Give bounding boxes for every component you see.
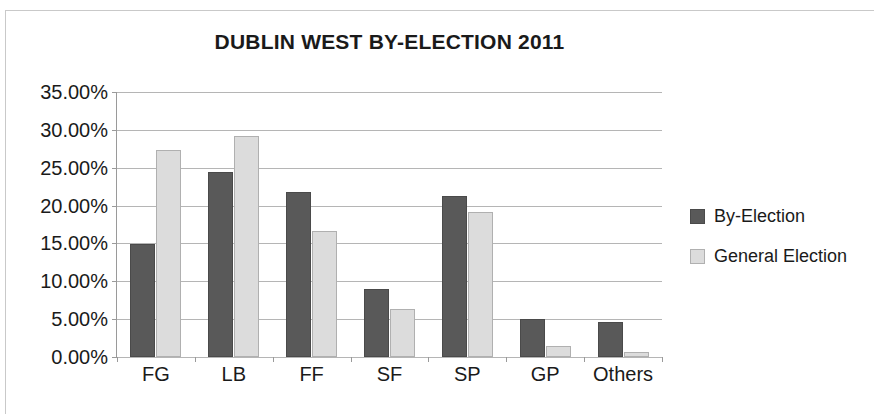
x-axis-category-label: LB (195, 363, 273, 386)
bar (624, 352, 649, 357)
legend-swatch-icon (690, 209, 705, 224)
bar (390, 309, 415, 357)
y-axis-tick-label: 20.00% (40, 194, 108, 217)
y-axis-tick-label: 0.00% (51, 346, 108, 369)
legend-item[interactable]: General Election (690, 236, 847, 276)
gridline (117, 357, 662, 358)
bar (130, 244, 155, 357)
x-axis-category-label: FG (117, 363, 195, 386)
x-axis-tick (584, 357, 585, 362)
y-axis-labels: 0.00%5.00%10.00%15.00%20.00%25.00%30.00%… (10, 92, 108, 357)
x-axis-tick (273, 357, 274, 362)
bar (364, 289, 389, 357)
x-axis-category-label: SP (428, 363, 506, 386)
bar (546, 346, 571, 357)
chart-title: DUBLIN WEST BY-ELECTION 2011 (117, 30, 662, 54)
plot-area (117, 92, 662, 357)
x-axis-tick (351, 357, 352, 362)
x-axis-category-label: GP (506, 363, 584, 386)
bar-group (117, 92, 195, 357)
bar-group (506, 92, 584, 357)
bar-group (584, 92, 662, 357)
bar-group (428, 92, 506, 357)
bar (156, 150, 181, 357)
x-axis-tick (506, 357, 507, 362)
bar (312, 231, 337, 357)
legend-swatch-icon (690, 249, 705, 264)
y-axis-tick-label: 10.00% (40, 270, 108, 293)
bar (234, 136, 259, 357)
x-axis-category-label: SF (351, 363, 429, 386)
x-axis-tick (662, 357, 663, 362)
x-axis-category-label: FF (273, 363, 351, 386)
bar (286, 192, 311, 357)
legend-label: By-Election (714, 206, 805, 227)
x-axis-tick (117, 357, 118, 362)
bar (442, 196, 467, 357)
bar (520, 319, 545, 357)
chart-screenshot: DUBLIN WEST BY-ELECTION 2011 0.00%5.00%1… (0, 0, 876, 414)
bar (598, 322, 623, 357)
y-axis-tick-label: 25.00% (40, 156, 108, 179)
bar (208, 172, 233, 358)
x-axis-category-label: Others (584, 363, 662, 386)
bar-group (273, 92, 351, 357)
y-axis-tick-label: 30.00% (40, 118, 108, 141)
legend-item[interactable]: By-Election (690, 196, 847, 236)
x-axis-tick (195, 357, 196, 362)
bar (468, 212, 493, 357)
chart-legend: By-ElectionGeneral Election (690, 196, 847, 276)
x-axis-tick (428, 357, 429, 362)
legend-label: General Election (714, 246, 847, 267)
bar-group (195, 92, 273, 357)
y-axis-tick-label: 35.00% (40, 81, 108, 104)
y-axis-tick-label: 5.00% (51, 308, 108, 331)
y-axis-tick-label: 15.00% (40, 232, 108, 255)
bar-group (351, 92, 429, 357)
